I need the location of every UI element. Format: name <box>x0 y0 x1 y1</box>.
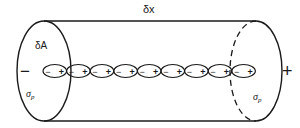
right-positive-charge: + <box>282 61 293 81</box>
dipole: −+ <box>232 65 256 78</box>
dipole-negative-end: − <box>234 67 239 77</box>
right-surface-charge-label: σp <box>253 91 262 104</box>
dipole-negative-end: − <box>140 67 145 77</box>
dipole-negative-end: − <box>163 67 168 77</box>
dipole: −+ <box>208 65 232 78</box>
dipole-positive-end: + <box>153 67 158 77</box>
dipole-positive-end: + <box>82 67 87 77</box>
dipole: −+ <box>90 65 114 78</box>
dipole: −+ <box>137 65 161 78</box>
dipole-negative-end: − <box>92 67 97 77</box>
left-negative-charge: − <box>20 62 30 81</box>
area-label: δA <box>35 40 48 51</box>
dipole-positive-end: + <box>59 67 64 77</box>
right-end-face-visible-edge <box>256 21 282 121</box>
dielectric-cylinder-diagram: −+−+−+−+−+−+−+−+−+ δx δA − + σp σp <box>0 0 300 128</box>
dipole-positive-end: + <box>200 67 205 77</box>
dipole: −+ <box>161 65 185 78</box>
left-surface-charge-label: σp <box>26 88 35 101</box>
dipole-positive-end: + <box>177 67 182 77</box>
dipole-positive-end: + <box>224 67 229 77</box>
sigma-subscript: p <box>257 96 262 104</box>
length-label: δx <box>143 3 155 15</box>
dipole-negative-end: − <box>45 67 50 77</box>
dipole-positive-end: + <box>247 67 252 77</box>
sigma-subscript: p <box>30 93 35 101</box>
dipole-negative-end: − <box>210 67 215 77</box>
dipole-chain: −+−+−+−+−+−+−+−+−+ <box>43 65 255 78</box>
dipole-negative-end: − <box>187 67 192 77</box>
dipole: −+ <box>43 65 67 78</box>
dipole: −+ <box>67 65 91 78</box>
diagram-canvas: −+−+−+−+−+−+−+−+−+ δx δA − + σp σp <box>0 0 300 128</box>
dipole: −+ <box>185 65 209 78</box>
dipole-negative-end: − <box>69 67 74 77</box>
dipole-negative-end: − <box>116 67 121 77</box>
dipole-positive-end: + <box>129 67 134 77</box>
dipole-positive-end: + <box>106 67 111 77</box>
dipole: −+ <box>114 65 138 78</box>
